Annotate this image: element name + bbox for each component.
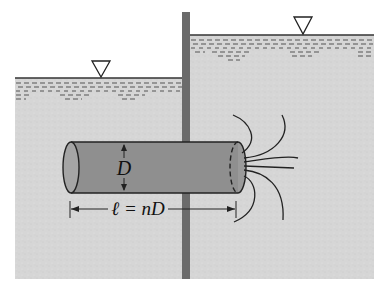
pipe [63, 142, 246, 193]
left-water-level-icon [92, 61, 110, 77]
pipe-wall-diagram: D ℓ = nD [0, 0, 382, 290]
right-water-level-icon [294, 17, 312, 34]
diameter-label: D [116, 157, 132, 179]
length-label: ℓ = nD [111, 198, 165, 219]
pipe-left-end [63, 142, 79, 193]
